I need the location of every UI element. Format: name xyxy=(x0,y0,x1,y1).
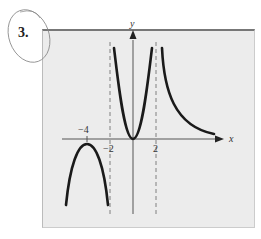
right-branch-curve xyxy=(162,48,214,134)
hand-drawn-circle-tail xyxy=(20,11,40,18)
tick-label-2: 2 xyxy=(153,143,158,154)
hand-drawn-circle xyxy=(1,4,57,68)
x-axis-arrow-icon xyxy=(215,136,224,143)
problem-number: 3. xyxy=(18,25,29,41)
graph-svg: y x −4 −2 2 xyxy=(0,0,261,239)
left-branch-curve xyxy=(66,144,108,205)
y-axis-arrow-icon xyxy=(130,30,137,39)
tick-label-minus2: −2 xyxy=(103,143,114,154)
x-axis-label: x xyxy=(228,133,234,144)
tick-label-minus4: −4 xyxy=(78,124,89,135)
y-axis-label: y xyxy=(129,18,135,29)
